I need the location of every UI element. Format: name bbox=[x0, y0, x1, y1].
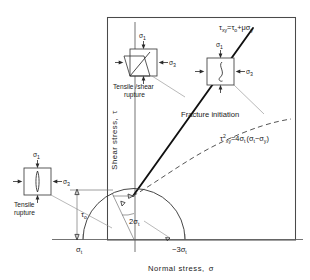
tensile-shear-sigma1-head-top bbox=[142, 45, 146, 50]
angle-label: 2σt bbox=[129, 217, 140, 227]
tensile-shear-sigma1-label: σ1 bbox=[139, 32, 146, 41]
fracture-initiation-sigma1-head-bottom bbox=[219, 85, 223, 90]
tensile-shear-leader bbox=[152, 76, 185, 97]
inset-tensile-shear-rupture: σ1 σ3 Tensile /shear rupture bbox=[113, 32, 185, 99]
tensile-shear-caption-line2: rupture bbox=[124, 91, 145, 99]
coulomb-equation: τxy=τo+μσy bbox=[219, 23, 253, 33]
tensile-rupture-sigma3-head-left bbox=[18, 180, 23, 184]
envelope-origin-arrow-2 bbox=[121, 201, 125, 206]
tensile-rupture-sigma1-label: σ1 bbox=[33, 151, 40, 160]
fracture-initiation-sigma3-label: σ3 bbox=[246, 68, 253, 77]
tensile-shear-caption-line1: Tensile /shear bbox=[113, 83, 154, 90]
tensile-rupture-caption-line2: rupture bbox=[14, 209, 35, 217]
tensile-shear-element-box bbox=[130, 49, 157, 76]
tensile-shear-sigma3-label: σ3 bbox=[169, 59, 176, 68]
tensile-shear-sigma1-head-bottom bbox=[142, 76, 146, 81]
fracture-initiation-sigma1-head-top bbox=[219, 54, 223, 59]
griffith-equation: τ2xy=4σt(σt−σy) bbox=[220, 133, 269, 144]
tensile-rupture-caption-line1: Tensile bbox=[14, 201, 35, 208]
tensile-rupture-sigma1-head-top bbox=[36, 164, 40, 169]
inset-fracture-initiation: σ1 σ3 bbox=[195, 41, 264, 114]
fracture-initiation-label: Fracture initiation bbox=[181, 110, 239, 119]
tensile-rupture-sigma1-head-bottom bbox=[36, 195, 40, 200]
x-tick-label-sigma-t: σt bbox=[76, 245, 83, 255]
tensile-rupture-leader bbox=[51, 195, 112, 228]
fracture-initiation-sigma1-label: σ1 bbox=[216, 41, 223, 50]
fracture-initiation-sigma3-head-left bbox=[200, 70, 205, 74]
y-axis-title: Shear stress,τ bbox=[110, 110, 119, 169]
tensile-shear-sigma3-head-left bbox=[119, 61, 124, 65]
tensile-rupture-sigma3-head-right bbox=[53, 180, 58, 184]
mohr-diagram-figure: τo σt −3σt 2σt Normal stress,σ Shear str… bbox=[0, 0, 310, 280]
angle-leader-line bbox=[144, 221, 170, 238]
x-tick-label-neg-3-sigma-t: −3σt bbox=[172, 245, 187, 255]
griffith-criterion-curve bbox=[133, 119, 291, 196]
tensile-shear-sigma3-head-right bbox=[159, 61, 164, 65]
x-axis-title: Normal stress,σ bbox=[148, 264, 214, 273]
inset-tensile-rupture: σ1 σ3 Tensile rupture bbox=[13, 151, 112, 228]
angle-arc bbox=[122, 214, 134, 216]
tensile-rupture-sigma3-label: σ3 bbox=[63, 178, 70, 187]
fracture-initiation-sigma3-head-right bbox=[236, 70, 241, 74]
